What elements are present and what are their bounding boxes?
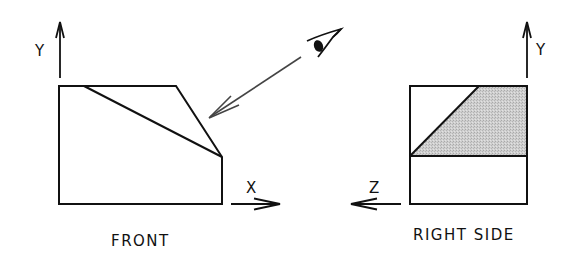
side-z-axis-arrow bbox=[351, 199, 401, 210]
right-side-view-label: RIGHT SIDE bbox=[413, 226, 515, 244]
line-of-sight bbox=[209, 57, 301, 118]
projection-diagram: Y X FRONT Y Z RIG bbox=[0, 0, 582, 257]
view-direction-arrow bbox=[210, 57, 301, 117]
eye-icon bbox=[307, 29, 341, 57]
front-x-axis-arrow bbox=[231, 199, 280, 210]
side-y-axis-arrow bbox=[523, 22, 531, 78]
right-side-view: Y Z RIGHT SIDE bbox=[351, 22, 546, 244]
front-y-axis-arrow bbox=[56, 22, 64, 78]
front-x-axis-label: X bbox=[246, 179, 256, 197]
front-view-inclined-edge bbox=[84, 86, 222, 157]
side-z-axis-label: Z bbox=[369, 179, 379, 197]
front-view-label: FRONT bbox=[111, 232, 170, 250]
front-y-axis-label: Y bbox=[34, 42, 45, 60]
front-view: Y X FRONT bbox=[34, 22, 280, 250]
side-y-axis-label: Y bbox=[535, 41, 546, 59]
